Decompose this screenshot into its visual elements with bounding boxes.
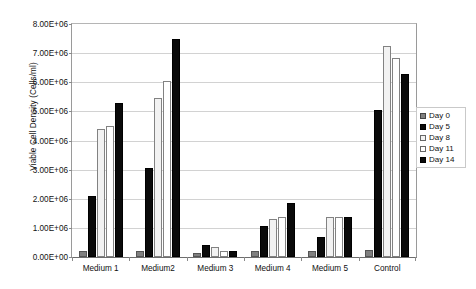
y-axis-tick-label: 0.00E+00 (33, 253, 68, 262)
x-axis-category-label: Medium2 (141, 264, 175, 273)
bar-day-5 (145, 168, 153, 257)
y-axis-tick-label: 8.00E+06 (33, 20, 68, 29)
bar-group-medium-3: Medium 3 (187, 24, 244, 257)
x-axis-tick-mark (187, 257, 188, 261)
legend-item-day-5: Day 5 (419, 121, 463, 132)
bar-day-8 (154, 98, 162, 257)
legend-item-day-0: Day 0 (419, 110, 463, 121)
bar-day-14 (401, 74, 409, 257)
x-axis-category-label: Medium 1 (83, 264, 119, 273)
bar-day-8 (97, 129, 105, 257)
bar-day-8 (383, 46, 391, 257)
bar-day-8 (326, 217, 334, 257)
legend-label: Day 14 (429, 155, 454, 164)
bar-day-8 (211, 247, 219, 257)
y-axis-tick-label: 4.00E+06 (33, 136, 68, 145)
bar-day-14 (287, 203, 295, 257)
legend-swatch-icon (420, 157, 426, 163)
bar-day-5 (202, 245, 210, 257)
y-axis-tick-label: 7.00E+06 (33, 49, 68, 58)
bar-day-0 (79, 251, 87, 257)
bar-day-11 (278, 217, 286, 257)
legend-swatch-icon (420, 135, 426, 141)
y-axis-tick-label: 1.00E+06 (33, 223, 68, 232)
x-axis-category-label: Medium 4 (255, 264, 291, 273)
legend-label: Day 5 (429, 122, 450, 131)
legend-item-day-8: Day 8 (419, 132, 463, 143)
bar-day-0 (251, 251, 259, 257)
legend-label: Day 0 (429, 111, 450, 120)
plot-area: 0.00E+001.00E+062.00E+063.00E+064.00E+06… (71, 23, 417, 258)
bar-day-0 (193, 253, 201, 257)
legend-swatch-icon (420, 146, 426, 152)
bar-groups: Medium 1Medium2Medium 3Medium 4Medium 5C… (72, 24, 416, 257)
bar-day-11 (163, 81, 171, 257)
y-axis-tick-label: 2.00E+06 (33, 194, 68, 203)
chart-legend: Day 0Day 5Day 8Day 11Day 14 (416, 107, 466, 168)
bar-day-5 (88, 196, 96, 257)
legend-swatch-icon (420, 124, 426, 130)
bar-day-0 (308, 251, 316, 257)
bar-day-11 (220, 251, 228, 257)
x-axis-tick-mark (244, 257, 245, 261)
bar-day-14 (172, 39, 180, 257)
x-axis-tick-mark (301, 257, 302, 261)
bar-day-14 (229, 251, 237, 257)
bar-day-11 (106, 126, 114, 257)
bar-day-14 (344, 217, 352, 257)
bar-group-control: Control (359, 24, 416, 257)
bar-group-medium-5: Medium 5 (301, 24, 358, 257)
y-axis-tick-label: 5.00E+06 (33, 107, 68, 116)
bar-day-5 (374, 110, 382, 257)
x-axis-tick-mark (129, 257, 130, 261)
x-axis-category-label: Medium 5 (312, 264, 348, 273)
legend-item-day-11: Day 11 (419, 143, 463, 154)
x-axis-category-label: Control (374, 264, 400, 273)
legend-item-day-14: Day 14 (419, 154, 463, 165)
bar-group-medium2: Medium2 (129, 24, 186, 257)
bar-group-medium-1: Medium 1 (72, 24, 129, 257)
legend-swatch-icon (420, 113, 426, 119)
y-axis-tick-label: 6.00E+06 (33, 78, 68, 87)
bar-chart: Viable Cell Density (Cells/ml) 0.00E+001… (0, 0, 476, 289)
bar-day-5 (317, 237, 325, 257)
x-axis-tick-mark (72, 257, 73, 261)
x-axis-tick-mark (359, 257, 360, 261)
legend-label: Day 11 (429, 144, 454, 153)
bar-day-5 (260, 226, 268, 257)
bar-day-0 (136, 251, 144, 257)
x-axis-category-label: Medium 3 (197, 264, 233, 273)
bar-day-0 (365, 250, 373, 257)
legend-label: Day 8 (429, 133, 450, 142)
bar-day-11 (335, 217, 343, 257)
bar-day-8 (269, 219, 277, 257)
bar-group-medium-4: Medium 4 (244, 24, 301, 257)
x-axis-tick-mark (415, 257, 416, 261)
bar-day-11 (392, 58, 400, 258)
y-axis-tick-label: 3.00E+06 (33, 165, 68, 174)
bar-day-14 (115, 103, 123, 257)
